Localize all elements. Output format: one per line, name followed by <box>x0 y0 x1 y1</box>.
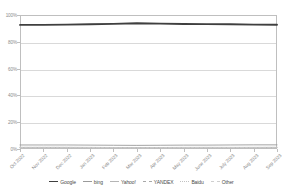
legend-marker-icon <box>83 181 92 182</box>
legend-marker-icon <box>180 181 189 182</box>
x-axis-tick-mark <box>137 149 138 152</box>
gridline <box>21 70 276 71</box>
gridline <box>21 123 276 124</box>
legend-item-bing[interactable]: bing <box>83 179 103 185</box>
legend-label: YANDEX <box>154 179 174 185</box>
x-axis-tick-mark <box>67 149 68 152</box>
legend-label: Other <box>222 179 234 185</box>
clipped-header-text: · · · · · <box>0 0 14 2</box>
x-axis-tick-mark <box>113 149 114 152</box>
y-axis-tick-label: 60% <box>8 66 17 71</box>
x-axis-tick-mark <box>160 149 161 152</box>
legend-label: bing <box>94 179 103 185</box>
legend-item-other[interactable]: Other <box>211 179 234 185</box>
legend-marker-icon <box>211 181 220 182</box>
x-axis-tick-mark <box>20 149 21 152</box>
legend-label: Baidu <box>191 179 203 185</box>
plot-area <box>20 15 277 149</box>
y-axis: 0%20%40%60%80%100% <box>0 10 20 155</box>
x-axis-tick-mark <box>90 149 91 152</box>
x-axis-tick-mark <box>43 149 44 152</box>
x-axis-tick-mark <box>230 149 231 152</box>
y-axis-tick-label: 40% <box>8 93 17 98</box>
legend-marker-icon <box>110 181 119 182</box>
clipped-header-strip: · · · · · <box>0 0 283 7</box>
legend-item-yandex[interactable]: YANDEX <box>143 179 174 185</box>
gridline <box>21 43 276 44</box>
legend-item-google[interactable]: Google <box>49 179 76 185</box>
search-engine-market-share-chart: · · · · · 0%20%40%60%80%100% Oct 2022Nov… <box>0 0 283 193</box>
legend-label: Yahoo! <box>121 179 136 185</box>
chart-legend: GooglebingYahoo!YANDEXBaiduOther <box>0 176 283 187</box>
legend-marker-icon <box>49 181 58 182</box>
legend-item-yahoo[interactable]: Yahoo! <box>110 179 136 185</box>
x-axis-tick-mark <box>254 149 255 152</box>
legend-item-baidu[interactable]: Baidu <box>180 179 203 185</box>
x-axis-tick-mark <box>207 149 208 152</box>
x-axis-tick-mark <box>277 149 278 152</box>
gridline <box>21 96 276 97</box>
legend-label: Google <box>60 179 76 185</box>
y-axis-tick-label: 20% <box>8 120 17 125</box>
legend-marker-icon <box>143 181 152 182</box>
x-axis-tick-mark <box>184 149 185 152</box>
y-axis-tick-label: 100% <box>6 13 17 18</box>
y-axis-tick-label: 80% <box>8 39 17 44</box>
